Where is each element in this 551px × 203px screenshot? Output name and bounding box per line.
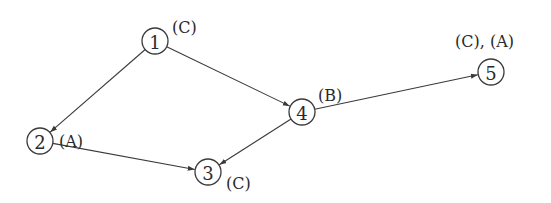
node-number: 1 bbox=[149, 32, 160, 53]
edges-group bbox=[50, 47, 478, 170]
node-annotation: (A) bbox=[59, 132, 83, 151]
node-2: 2(A) bbox=[27, 128, 83, 154]
nodes-group: 1(C)2(A)3(C)4(B)5(C), (A) bbox=[27, 18, 514, 193]
node-number: 2 bbox=[34, 132, 45, 153]
node-number: 5 bbox=[485, 63, 496, 84]
node-number: 3 bbox=[202, 163, 213, 184]
node-annotation: (C), (A) bbox=[455, 32, 514, 51]
node-3: 3(C) bbox=[195, 159, 251, 193]
node-5: 5(C), (A) bbox=[455, 32, 514, 85]
node-number: 4 bbox=[296, 103, 307, 124]
edge-4-to-3 bbox=[219, 119, 291, 165]
node-annotation: (B) bbox=[318, 86, 342, 105]
node-annotation: (C) bbox=[172, 18, 197, 37]
edge-1-to-4 bbox=[167, 47, 290, 106]
node-annotation: (C) bbox=[226, 174, 251, 193]
node-1: 1(C) bbox=[142, 18, 197, 54]
edge-1-to-2 bbox=[50, 50, 145, 133]
graph-diagram: 1(C)2(A)3(C)4(B)5(C), (A) bbox=[0, 0, 551, 203]
